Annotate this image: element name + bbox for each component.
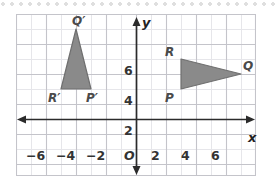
x-axis-arrow-left — [17, 116, 26, 124]
vertex-label-Q-prime: Q′ — [72, 15, 85, 27]
origin-label: O — [124, 150, 135, 163]
x-tick-6: 6 — [211, 150, 220, 163]
x-tick-2: 2 — [151, 150, 160, 163]
vertex-label-Q: Q — [243, 60, 253, 72]
y-tick-6: 6 — [124, 65, 133, 78]
x-tick--4: −4 — [56, 150, 75, 163]
y-axis-arrow-up — [133, 17, 141, 26]
x-tick--2: −2 — [86, 150, 105, 163]
y-axis-label: y — [142, 16, 150, 29]
vertex-label-R: R — [165, 46, 174, 58]
x-axis-arrow-right — [246, 116, 255, 124]
vertex-label-P: P — [165, 92, 174, 104]
x-axis-label: x — [248, 131, 256, 144]
y-tick-4: 4 — [124, 95, 133, 108]
scan-dot-texture — [0, 0, 276, 11]
coordinate-plane-figure: −6 −4 −2 2 4 6 2 4 6 O x y Q′ R′ P′ R P … — [0, 0, 276, 184]
y-axis-arrow-down — [133, 166, 141, 175]
y-tick-2: 2 — [124, 125, 133, 138]
x-tick--6: −6 — [26, 150, 45, 163]
x-tick-4: 4 — [181, 150, 190, 163]
vertex-label-R-prime: R′ — [48, 92, 60, 104]
vertex-label-P-prime: P′ — [86, 92, 98, 104]
